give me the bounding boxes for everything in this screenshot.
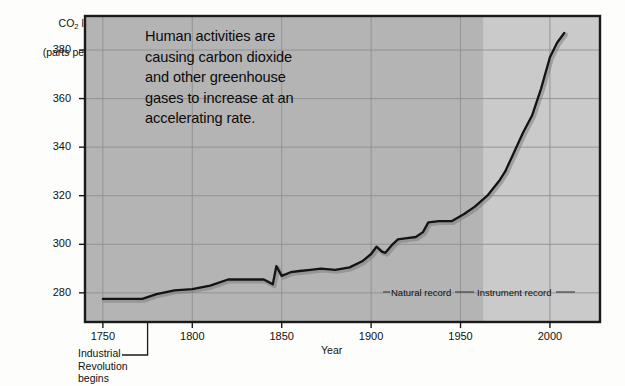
- callout-line-1: Human activities are: [145, 28, 275, 44]
- x-tick-label-1900: 1900: [351, 330, 391, 342]
- y-tick-label-360: 360: [41, 92, 71, 104]
- callout-line-4: gases to increase at an: [145, 90, 294, 106]
- industrial-revolution-line-3: begins: [78, 372, 109, 384]
- region-instrument-record: [484, 16, 600, 322]
- y-tick-label-340: 340: [41, 140, 71, 152]
- x-tick-label-2000: 2000: [530, 330, 570, 342]
- natural-record-label: Natural record: [391, 287, 451, 298]
- y-tick-label-280: 280: [41, 286, 71, 298]
- y-tick-label-300: 300: [41, 237, 71, 249]
- co2-chart-figure: CO2 level (parts per million) 3803603403…: [0, 0, 625, 386]
- industrial-revolution-annotation: IndustrialRevolutionbegins: [78, 347, 128, 385]
- x-tick-label-1750: 1750: [83, 330, 123, 342]
- y-tick-label-320: 320: [41, 189, 71, 201]
- y-tick-label-380: 380: [41, 43, 71, 55]
- callout-line-3: and other greenhouse: [145, 69, 286, 85]
- main-callout-annotation: Human activities arecausing carbon dioxi…: [145, 26, 294, 129]
- industrial-revolution-line-1: Industrial: [78, 347, 121, 359]
- x-tick-label-1800: 1800: [172, 330, 212, 342]
- x-tick-label-1950: 1950: [441, 330, 481, 342]
- x-axis-title: Year: [321, 344, 342, 356]
- callout-line-2: causing carbon dioxide: [145, 49, 292, 65]
- plot-area: [0, 0, 625, 386]
- x-tick-label-1850: 1850: [262, 330, 302, 342]
- callout-line-5: accelerating rate.: [145, 110, 255, 126]
- instrument-record-label: Instrument record: [477, 287, 551, 298]
- industrial-revolution-line-2: Revolution: [78, 360, 128, 372]
